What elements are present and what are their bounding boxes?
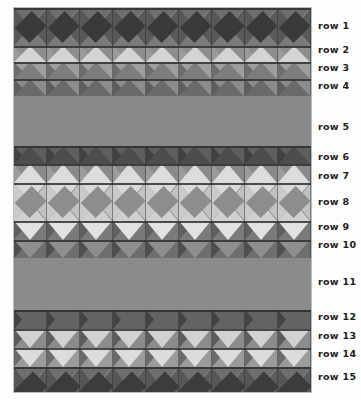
pattern-tile — [212, 62, 245, 79]
tile-triangle-up — [212, 62, 244, 79]
tile-triangle-up — [47, 46, 79, 62]
tile-triangle-down — [47, 329, 79, 348]
row-label-2: row 2 — [318, 44, 349, 55]
tile-triangle-down — [278, 348, 310, 367]
tile-strip — [14, 240, 311, 258]
tile-triangle-down — [47, 240, 79, 258]
tile-triangle-up — [179, 46, 211, 62]
pattern-tile — [146, 310, 179, 329]
pattern-tile — [278, 62, 311, 79]
tile-triangle-up — [245, 46, 277, 62]
pattern-row-5 — [14, 96, 311, 146]
tile-seam — [310, 164, 311, 183]
tile-seam — [310, 348, 311, 367]
pattern-tile — [179, 8, 212, 46]
tile-triangle-down — [113, 221, 145, 240]
tile-triangle-down — [212, 329, 244, 348]
tile-triangle-down — [113, 240, 145, 258]
pattern-row-1 — [14, 8, 311, 46]
pattern-row-3 — [14, 62, 311, 79]
pattern-tile — [245, 79, 278, 96]
tile-triangle-up — [146, 62, 178, 79]
tile-triangle-up — [80, 146, 112, 164]
tile-triangle-down — [245, 348, 277, 367]
pattern-tile — [14, 310, 47, 329]
pattern-tile — [113, 240, 146, 258]
tile-triangle-up — [146, 164, 178, 183]
pattern-tile — [113, 146, 146, 164]
tile-triangle-up — [278, 62, 310, 79]
tile-triangle-down — [179, 240, 211, 258]
tile-triangle-down — [212, 310, 244, 329]
pattern-tile — [14, 46, 47, 62]
pattern-tile — [245, 46, 278, 62]
tile-triangle-up — [113, 79, 145, 96]
pattern-tile — [113, 62, 146, 79]
tile-triangle-down — [278, 329, 310, 348]
tile-strip — [14, 62, 311, 79]
row-separator — [14, 79, 311, 81]
tile-triangle-up — [14, 46, 46, 62]
pattern-tile — [80, 164, 113, 183]
tile-triangle-up — [14, 146, 46, 164]
row-label-10: row 10 — [318, 239, 356, 250]
pattern-row-7 — [14, 164, 311, 183]
tile-seam — [310, 62, 311, 79]
pattern-row-15 — [14, 367, 311, 392]
pattern-tile — [278, 367, 311, 392]
tile-triangle-down — [146, 221, 178, 240]
pattern-tile — [212, 146, 245, 164]
pattern-tile — [80, 367, 113, 392]
pattern-tile — [14, 164, 47, 183]
pattern-tile — [212, 221, 245, 240]
tile-triangle-up — [278, 46, 310, 62]
pattern-tile — [179, 62, 212, 79]
pattern-tile — [113, 183, 146, 221]
tile-triangle-down — [80, 240, 112, 258]
pattern-tile — [278, 329, 311, 348]
pattern-tile — [179, 46, 212, 62]
pattern-tile — [14, 329, 47, 348]
pattern-tile — [113, 46, 146, 62]
tile-triangle-up — [80, 46, 112, 62]
row-separator — [14, 348, 311, 350]
pattern-tile — [146, 62, 179, 79]
pattern-tile — [212, 329, 245, 348]
tile-triangle-up — [212, 146, 244, 164]
pattern-tile — [245, 310, 278, 329]
tile-triangle-up — [113, 46, 145, 62]
pattern-tile — [146, 8, 179, 46]
tile-triangle-up — [47, 146, 79, 164]
pattern-tile — [278, 221, 311, 240]
tile-triangle-up — [179, 146, 211, 164]
pattern-tile — [146, 79, 179, 96]
pattern-tile — [47, 240, 80, 258]
tile-triangle-up — [245, 62, 277, 79]
plain-band-fill — [14, 96, 311, 146]
tile-seam — [310, 8, 311, 46]
pattern-tile — [245, 348, 278, 367]
pattern-tile — [146, 46, 179, 62]
tile-triangle-down — [212, 348, 244, 367]
pattern-tile — [47, 46, 80, 62]
pattern-row-2 — [14, 46, 311, 62]
tile-triangle-down — [113, 329, 145, 348]
tile-seam — [310, 221, 311, 240]
pattern-tile — [14, 62, 47, 79]
row-label-7: row 7 — [318, 170, 349, 181]
tile-triangle-down — [146, 240, 178, 258]
tile-triangle-up — [14, 164, 46, 183]
pattern-tile — [14, 146, 47, 164]
tile-strip — [14, 164, 311, 183]
tile-seam — [310, 310, 311, 329]
pattern-tile — [179, 164, 212, 183]
tile-triangle-down — [179, 310, 211, 329]
tile-triangle-down — [245, 310, 277, 329]
pattern-row-12 — [14, 310, 311, 329]
pattern-tile — [80, 329, 113, 348]
row-separator — [14, 146, 311, 148]
tile-triangle-down — [245, 240, 277, 258]
row-label-12: row 12 — [318, 311, 356, 322]
tile-triangle-down — [47, 221, 79, 240]
pattern-tile — [47, 348, 80, 367]
